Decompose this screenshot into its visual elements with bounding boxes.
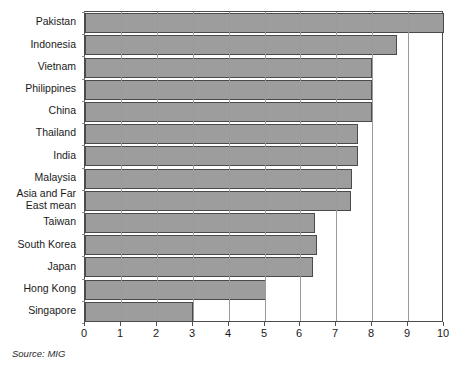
x-axis-tick-label-9: 9 [392,327,422,339]
source-note: Source: MIG [12,348,65,359]
bar [85,302,193,322]
gridline-2 [157,12,158,321]
gridline-3 [193,12,194,321]
gridline-6 [300,12,301,321]
bar [85,146,358,166]
y-axis-label-japan: Japan [0,261,76,273]
y-axis-tick [82,56,85,57]
y-axis-tick [82,12,85,13]
y-axis-tick [82,190,85,191]
y-axis-label-philippines: Philippines [0,83,76,95]
x-axis-tick-mark-4 [228,322,229,326]
y-axis-label-singapore: Singapore [0,305,76,317]
y-axis-tick [82,168,85,169]
x-axis-tick-mark-8 [371,322,372,326]
gridline-1 [121,12,122,321]
x-axis-tick-label-2: 2 [141,327,171,339]
y-axis-tick [82,79,85,80]
bar-chart: PakistanIndonesiaVietnamPhilippinesChina… [0,0,458,370]
y-axis-label-india: India [0,150,76,162]
y-axis-tick [82,301,85,302]
gridline-5 [265,12,266,321]
x-axis-tick-label-5: 5 [249,327,279,339]
gridline-8 [372,12,373,321]
x-axis-tick-mark-5 [264,322,265,326]
bars-container [85,12,442,321]
x-axis-tick-mark-0 [84,322,85,326]
x-axis-tick-mark-7 [335,322,336,326]
y-axis-label-china: China [0,105,76,117]
x-axis-ticks: 012345678910 [0,322,458,342]
gridline-4 [229,12,230,321]
x-axis-tick-label-7: 7 [320,327,350,339]
bar [85,280,266,300]
y-axis-category-labels: PakistanIndonesiaVietnamPhilippinesChina… [0,11,80,322]
x-axis-tick-label-3: 3 [177,327,207,339]
x-axis-tick-label-10: 10 [428,327,458,339]
bar [85,169,352,189]
x-axis-tick-label-6: 6 [284,327,314,339]
y-axis-label-malaysia: Malaysia [0,172,76,184]
y-axis-label-vietnam: Vietnam [0,61,76,73]
y-axis-label-south-korea: South Korea [0,239,76,251]
y-axis-tick [82,212,85,213]
bar [85,213,315,233]
bar [85,235,317,255]
x-axis-tick-label-8: 8 [356,327,386,339]
x-axis-tick-label-0: 0 [69,327,99,339]
bar [85,124,358,144]
y-axis-label-indonesia: Indonesia [0,39,76,51]
gridline-9 [408,12,409,321]
y-axis-tick [82,256,85,257]
y-axis-label-hong-kong: Hong Kong [0,283,76,295]
y-axis-tick [82,145,85,146]
gridline-7 [336,12,337,321]
y-axis-tick [82,234,85,235]
y-axis-label-asia-and-far-east-mean: Asia and Far East mean [0,188,76,211]
y-axis-tick [82,101,85,102]
y-axis-label-taiwan: Taiwan [0,216,76,228]
y-axis-tick [82,123,85,124]
y-axis-label-pakistan: Pakistan [0,16,76,28]
bar [85,257,313,277]
x-axis-tick-label-4: 4 [213,327,243,339]
x-axis-tick-mark-10 [443,322,444,326]
bar [85,191,351,211]
x-axis-tick-mark-3 [192,322,193,326]
x-axis-tick-mark-1 [120,322,121,326]
x-axis-tick-label-1: 1 [105,327,135,339]
y-axis-tick [82,34,85,35]
y-axis-label-thailand: Thailand [0,127,76,139]
x-axis-tick-mark-2 [156,322,157,326]
plot-area [84,11,443,322]
y-axis-tick [82,279,85,280]
bar [85,35,397,55]
x-axis-tick-mark-9 [407,322,408,326]
x-axis-tick-mark-6 [299,322,300,326]
